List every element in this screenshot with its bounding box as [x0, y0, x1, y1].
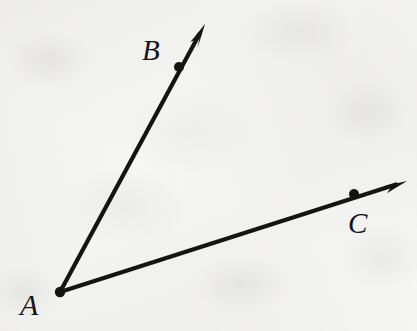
point-c-dot — [349, 189, 359, 199]
point-label-b: B — [142, 36, 160, 65]
point-a-dot — [55, 287, 65, 297]
point-label-a: A — [20, 290, 38, 320]
point-label-c: C — [348, 209, 367, 238]
geometry-figure: A B C — [0, 0, 417, 331]
angle-drawing-canvas — [0, 0, 417, 331]
point-b-dot — [174, 62, 184, 72]
